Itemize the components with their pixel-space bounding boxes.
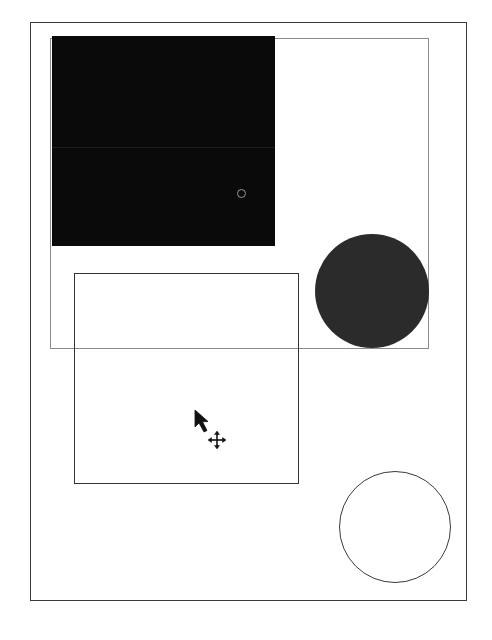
drawing-canvas[interactable] — [0, 0, 492, 640]
faint-guide-line — [52, 147, 275, 148]
outlined-circle[interactable] — [339, 471, 451, 583]
filled-circle[interactable] — [315, 234, 429, 348]
move-cursor-icon — [192, 407, 232, 451]
black-filled-rectangle[interactable] — [52, 36, 275, 246]
outlined-rectangle[interactable] — [74, 273, 299, 484]
rotation-handle-icon[interactable] — [237, 189, 246, 198]
